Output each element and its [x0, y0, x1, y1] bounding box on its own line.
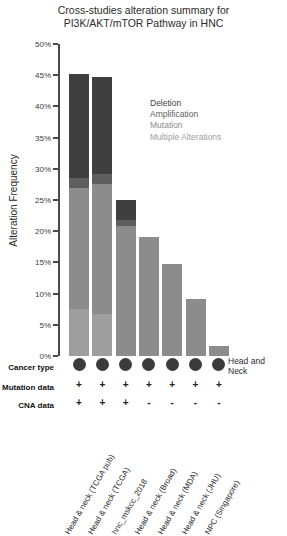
plot-area: 50%45%40%35%30%25%20%15%10%5%0%	[58, 44, 224, 356]
y-tick-mark	[53, 230, 58, 232]
cna-data-row-label: CNA data	[18, 401, 54, 410]
chart-title: Cross-studies alteration summary for PI3…	[0, 4, 287, 30]
y-tick-mark	[53, 324, 58, 326]
y-tick-label: 45%	[35, 71, 51, 80]
y-tick-label: 30%	[35, 164, 51, 173]
y-tick-mark	[53, 105, 58, 107]
legend-item-deletion[interactable]: Deletion	[150, 98, 221, 109]
mutation-data-cell[interactable]: +	[162, 378, 182, 392]
study-label[interactable]: Head & neck (TCGA)	[87, 466, 133, 536]
cancer-type-row: Cancer type	[60, 358, 224, 376]
cna-data-cell[interactable]: +	[116, 396, 136, 410]
cancer-type-cell[interactable]	[209, 358, 229, 371]
cancer-type-dot	[119, 358, 132, 371]
cna-data-cell[interactable]: +	[92, 396, 112, 410]
bar-segment-mutation[interactable]	[92, 184, 112, 313]
bar[interactable]	[116, 200, 136, 356]
cna-data-row: CNA data +++----	[60, 396, 224, 414]
mutation-data-cell[interactable]: +	[186, 378, 206, 392]
bar[interactable]	[139, 237, 159, 356]
bar-segment-mutation[interactable]	[162, 264, 182, 356]
bar-group	[60, 44, 224, 356]
cna-data-cell[interactable]: -	[162, 396, 182, 410]
y-tick-mark	[53, 261, 58, 263]
cancer-type-cell[interactable]	[186, 358, 206, 371]
mutation-data-row: Mutation data +++++++	[60, 378, 224, 396]
bar[interactable]	[186, 299, 206, 356]
cancer-type-dot	[73, 358, 86, 371]
chart-container: Cross-studies alteration summary for PI3…	[0, 0, 287, 536]
cancer-type-cell[interactable]	[162, 358, 182, 371]
legend-item-mutation[interactable]: Mutation	[150, 120, 221, 131]
cna-data-cell[interactable]: -	[139, 396, 159, 410]
cna-data-cell[interactable]: -	[209, 396, 229, 410]
mutation-data-cell[interactable]: +	[116, 378, 136, 392]
bar[interactable]	[162, 264, 182, 356]
study-labels: Head & neck (TCGA pub)Head & neck (TCGA)…	[60, 414, 287, 536]
study-label[interactable]: Head & neck (Broad)	[133, 467, 178, 536]
bar-segment-amplification[interactable]	[92, 174, 112, 185]
cancer-type-cell[interactable]	[69, 358, 89, 371]
cancer-type-side-label: Head and Neck	[228, 356, 265, 376]
y-tick-label: 15%	[35, 258, 51, 267]
y-tick-label: 0%	[39, 352, 51, 361]
bar-segment-amplification[interactable]	[69, 178, 89, 187]
bar-segment-deletion[interactable]	[69, 74, 89, 178]
bar-segment-deletion[interactable]	[92, 77, 112, 174]
bar[interactable]	[69, 74, 89, 356]
y-tick-mark	[53, 168, 58, 170]
bar-segment-mutation[interactable]	[209, 346, 229, 356]
chart-legend: DeletionAmplificationMutationMultiple Al…	[150, 98, 221, 143]
chart-title-line-2: PI3K/AKT/mTOR Pathway in HNC	[0, 17, 287, 30]
bar-segment-mutation[interactable]	[186, 299, 206, 356]
cancer-type-dot	[96, 358, 109, 371]
bar-segment-mutation[interactable]	[116, 226, 136, 356]
cancer-type-dot	[142, 358, 155, 371]
cna-data-cell[interactable]: -	[186, 396, 206, 410]
cna-data-cell[interactable]: +	[69, 396, 89, 410]
legend-item-amplification[interactable]: Amplification	[150, 109, 221, 120]
cancer-type-dot	[166, 358, 179, 371]
y-tick-mark	[53, 43, 58, 45]
y-tick-label: 10%	[35, 289, 51, 298]
bar-segment-deletion[interactable]	[116, 200, 136, 220]
y-tick-mark	[53, 293, 58, 295]
bar-segment-mutation[interactable]	[139, 237, 159, 356]
cancer-type-dot	[189, 358, 202, 371]
mutation-data-row-label: Mutation data	[2, 383, 54, 392]
y-axis-label: Alteration Frequency	[6, 44, 20, 356]
cancer-type-row-label: Cancer type	[8, 363, 54, 372]
bar-segment-multiple-alterations[interactable]	[69, 309, 89, 356]
y-tick-label: 25%	[35, 196, 51, 205]
legend-item-multiple-alterations[interactable]: Multiple Alterations	[150, 132, 221, 143]
bar-segment-mutation[interactable]	[69, 188, 89, 310]
bar-segment-multiple-alterations[interactable]	[92, 314, 112, 356]
y-tick-mark	[53, 199, 58, 201]
y-tick-mark	[53, 74, 58, 76]
y-tick-label: 40%	[35, 102, 51, 111]
mutation-data-cell[interactable]: +	[92, 378, 112, 392]
chart-title-line-1: Cross-studies alteration summary for	[0, 4, 287, 17]
mutation-data-cell[interactable]: +	[209, 378, 229, 392]
y-tick-label: 20%	[35, 227, 51, 236]
mutation-data-cell[interactable]: +	[139, 378, 159, 392]
y-tick-mark	[53, 137, 58, 139]
bar-segment-amplification[interactable]	[116, 220, 136, 226]
y-tick-label: 5%	[39, 320, 51, 329]
y-tick-label: 35%	[35, 133, 51, 142]
bar[interactable]	[92, 77, 112, 356]
y-tick-mark	[53, 355, 58, 357]
cancer-type-dot	[212, 358, 225, 371]
cancer-type-cell[interactable]	[116, 358, 136, 371]
cancer-type-cell[interactable]	[92, 358, 112, 371]
mutation-data-cell[interactable]: +	[69, 378, 89, 392]
y-tick-label: 50%	[35, 40, 51, 49]
bar[interactable]	[209, 346, 229, 356]
cancer-type-cell[interactable]	[139, 358, 159, 371]
